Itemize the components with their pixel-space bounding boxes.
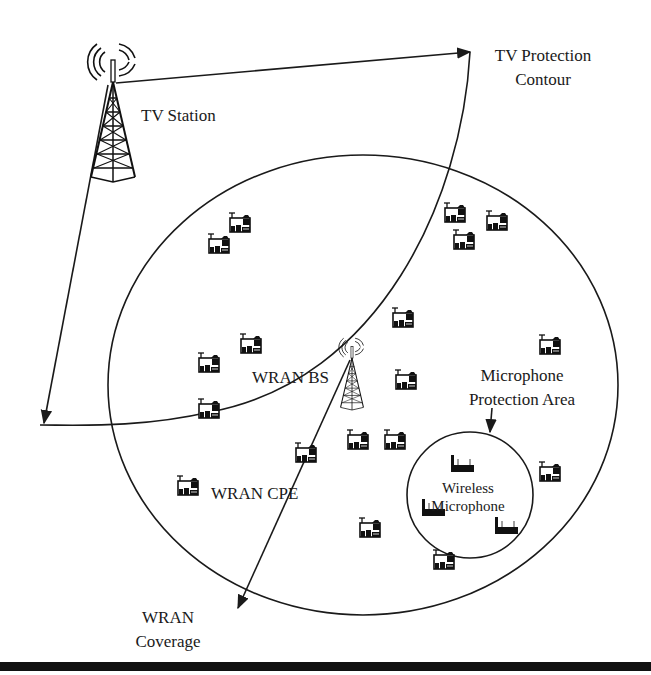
wran-bs-label: WRAN BS — [252, 367, 329, 388]
wran-coverage-label-2: Coverage — [135, 631, 200, 652]
house-icon — [392, 308, 413, 327]
house-icon — [229, 213, 250, 232]
microphone-protection-area-label-2: Protection Area — [469, 389, 575, 410]
tv-protection-contour-label-1: TV Protection — [495, 45, 591, 66]
wran-bs-tower-icon — [339, 338, 364, 410]
wran-coverage-label-1: WRAN — [142, 607, 194, 628]
wran-cpe-label: WRAN CPE — [211, 483, 298, 504]
house-icon — [347, 430, 368, 449]
house-icon — [539, 462, 560, 481]
house-icon — [384, 430, 405, 449]
tv-station-tower-icon — [88, 44, 135, 182]
bottom-divider-bar — [0, 662, 651, 671]
house-icon — [198, 399, 219, 418]
house-icon — [208, 234, 229, 253]
tv-range-arrow-right — [116, 52, 470, 83]
wireless-microphone-label-2: Microphone — [431, 497, 504, 515]
tv-protection-contour-label-2: Contour — [515, 69, 571, 90]
tv-range-arrow-down — [44, 85, 108, 423]
house-icon — [444, 203, 465, 222]
house-icon — [486, 211, 507, 230]
house-icon — [453, 230, 474, 249]
house-icon — [177, 476, 198, 495]
coverage-diagram — [0, 0, 651, 675]
tv-station-label: TV Station — [141, 105, 216, 126]
house-icon — [240, 334, 261, 353]
house-icon — [198, 353, 219, 372]
house-icon — [295, 443, 316, 462]
microphone-protection-area-label-1: Microphone — [480, 365, 563, 386]
mic-area-arrow — [490, 408, 492, 432]
house-icon — [359, 518, 380, 537]
microphone-icon — [495, 517, 518, 534]
house-icon — [395, 370, 416, 389]
wireless-microphone-label-1: Wireless — [442, 479, 494, 497]
microphone-icon — [451, 455, 474, 472]
house-icon — [539, 335, 560, 354]
